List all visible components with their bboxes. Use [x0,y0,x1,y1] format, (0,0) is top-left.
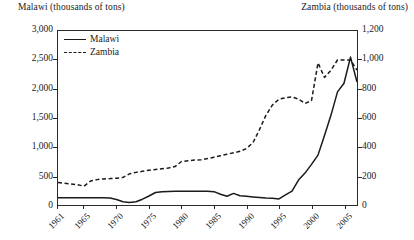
x-axis-tick-label: 1965 [65,211,92,238]
right-axis-tick-label: 800 [362,84,376,94]
legend-swatch-dashed-icon [64,52,86,53]
x-axis-tick-label: 1995 [262,211,289,238]
right-axis-tick-label: 1,000 [362,54,383,64]
legend-item-malawi: Malawi [64,33,119,46]
x-axis-tick-label: 1985 [196,211,223,238]
right-axis-tick-mark [358,89,362,90]
x-axis-tick-label: 1980 [164,211,191,238]
x-axis-tick-label: 1990 [229,211,256,238]
right-axis-tick-mark [358,177,362,178]
right-axis-tick-mark [358,147,362,148]
right-axis-tick-mark [358,118,362,119]
series-line-malawi [58,57,357,202]
right-axis-tick-label: 200 [362,172,376,182]
legend-label-malawi: Malawi [90,33,119,46]
left-axis-title: Malawi (thousands of tons) [18,2,125,12]
x-axis-tick-label: 1975 [131,211,158,238]
legend-swatch-solid-icon [64,39,86,40]
legend-item-zambia: Zambia [64,46,119,59]
right-axis-tick-label: 0 [362,201,367,211]
chart-figure: Malawi (thousands of tons) Zambia (thous… [0,0,414,240]
right-axis-tick-label: 400 [362,142,376,152]
x-axis-tick-label: 2005 [327,211,354,238]
series-line-zambia [58,60,357,186]
right-axis-tick-label: 1,200 [362,25,383,35]
right-axis-tick-label: 600 [362,113,376,123]
left-axis-tick-label: 3,000 [32,25,53,35]
left-axis-tick-label: 2,500 [32,54,53,64]
left-axis-tick-label: 1,000 [32,142,53,152]
x-axis-tick-label: 2000 [294,211,321,238]
x-axis-tick-label: 1970 [98,211,125,238]
left-axis-tick-label: 1,500 [32,113,53,123]
left-axis-tick-label: 2,000 [32,84,53,94]
right-axis-title: Zambia (thousands of tons) [301,2,408,12]
left-axis-tick-label: 0 [48,201,53,211]
legend-label-zambia: Zambia [90,46,119,59]
x-axis-tick-label: 1961 [39,211,66,238]
right-axis-tick-mark [358,59,362,60]
chart-legend: Malawi Zambia [64,33,119,59]
left-axis-tick-label: 500 [39,172,53,182]
